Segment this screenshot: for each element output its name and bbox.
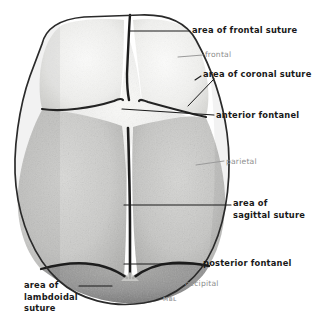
label-area-of-frontal-suture: area of frontal suture	[192, 25, 297, 37]
label-area-of-coronal-suture: area of coronal suture	[203, 69, 312, 81]
suture-sagittal-line	[128, 128, 130, 278]
label-frontal: frontal	[205, 50, 231, 60]
fetal-skull-diagram	[0, 0, 322, 326]
label-area-of-sagittal-suture-line2: sagittal suture	[233, 210, 305, 222]
label-area-of-lambdoidal-suture: area of lambdoidal suture	[24, 280, 78, 315]
skull-illustration	[15, 14, 232, 320]
label-parietal: parietal	[226, 157, 257, 167]
label-anterior-fontanel: anterior fontanel	[216, 110, 299, 122]
label-area-of-sagittal-suture-line1: area of	[233, 198, 305, 210]
label-area-of-lambdoidal-suture-line1: area of	[24, 280, 78, 292]
label-area-of-sagittal-suture: area of sagittal suture	[233, 198, 305, 221]
label-posterior-fontanel: posterior fontanel	[203, 258, 292, 270]
artist-signature: MBL	[163, 296, 177, 302]
label-occipital: occipital	[185, 279, 219, 289]
label-area-of-lambdoidal-suture-line3: suture	[24, 303, 78, 315]
bone-parietal-right	[132, 116, 225, 278]
label-area-of-lambdoidal-suture-line2: lambdoidal	[24, 292, 78, 304]
